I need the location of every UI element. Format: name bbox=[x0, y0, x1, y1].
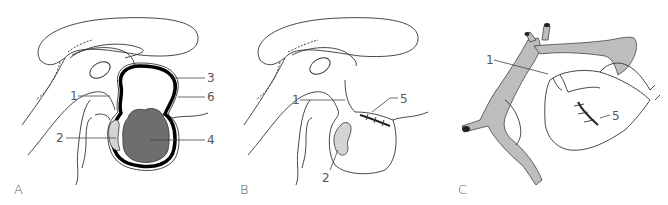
vessel-tree bbox=[462, 26, 637, 185]
label-1: 1 bbox=[70, 89, 78, 103]
label-1: 1 bbox=[292, 93, 300, 107]
panel-b-illustration: 1 5 2 bbox=[230, 0, 450, 205]
gland bbox=[109, 120, 120, 151]
panel-letter-b: B bbox=[240, 182, 249, 197]
upper-arch bbox=[38, 18, 198, 65]
label-2: 2 bbox=[322, 171, 330, 185]
label-5: 5 bbox=[612, 109, 620, 123]
tumor-mass bbox=[123, 108, 169, 162]
label-3: 3 bbox=[207, 71, 215, 85]
panel-c-illustration: 1 5 bbox=[450, 0, 668, 205]
panel-letter-c: C bbox=[458, 182, 467, 197]
label-6: 6 bbox=[207, 90, 215, 104]
label-5: 5 bbox=[400, 92, 408, 106]
gland bbox=[334, 123, 351, 156]
panel-c: 1 5 C bbox=[450, 0, 668, 205]
panel-a-illustration: 1 2 3 6 4 bbox=[0, 0, 230, 205]
label-4: 4 bbox=[207, 133, 215, 147]
panel-a: 1 2 3 6 4 A bbox=[0, 0, 230, 205]
panel-b: 1 5 2 B bbox=[230, 0, 450, 205]
panel-letter-a: A bbox=[14, 182, 23, 197]
label-1: 1 bbox=[486, 53, 494, 67]
label-2: 2 bbox=[56, 131, 64, 145]
